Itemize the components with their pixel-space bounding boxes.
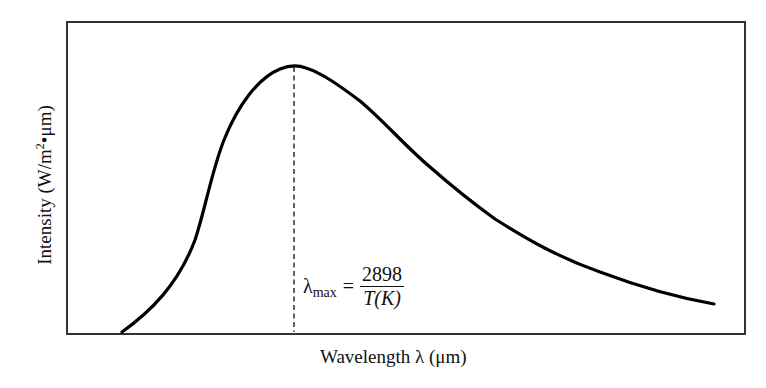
- formula-fraction: 2898 T(K): [360, 264, 404, 309]
- y-axis-label: Intensity (W/m2•μm): [33, 105, 56, 265]
- y-axis-label-superscript: 2: [33, 143, 47, 149]
- y-axis-label-unit: •μm): [34, 105, 55, 143]
- chart-plot-area: [0, 0, 766, 388]
- formula-equals: =: [343, 275, 354, 298]
- formula-numerator: 2898: [360, 264, 404, 287]
- formula-lambda-symbol: λ: [303, 275, 313, 298]
- wien-law-formula: λ max = 2898 T(K): [303, 264, 404, 309]
- formula-subscript: max: [313, 285, 337, 301]
- blackbody-curve: [122, 66, 714, 332]
- formula-denominator: T(K): [363, 287, 401, 309]
- x-axis-label: Wavelength λ (μm): [320, 346, 467, 368]
- y-axis-label-text: Intensity (W/m: [34, 149, 55, 265]
